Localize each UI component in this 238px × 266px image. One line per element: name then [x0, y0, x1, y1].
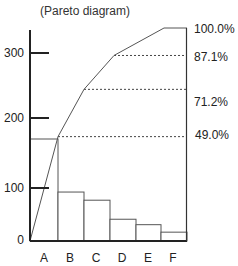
- ytick-300: 300: [2, 47, 24, 59]
- pct-label-49: 49.0%: [195, 129, 229, 141]
- bar-e: [136, 225, 161, 241]
- ytick-100: 100: [2, 182, 24, 194]
- xtick-f: F: [163, 252, 183, 264]
- xtick-e: E: [138, 252, 158, 264]
- cumulative-guides: [58, 55, 186, 136]
- xtick-a: A: [34, 252, 54, 264]
- pct-label-87: 87.1%: [194, 51, 228, 63]
- xtick-b: B: [60, 252, 80, 264]
- bar-b: [58, 192, 84, 241]
- ytick-200: 200: [2, 112, 24, 124]
- bar-d: [110, 219, 136, 241]
- bar-f: [161, 232, 187, 241]
- bar-c: [84, 200, 110, 241]
- xtick-c: C: [86, 252, 106, 264]
- ytick-0: 0: [2, 234, 24, 246]
- pct-label-100: 100.0%: [194, 23, 235, 35]
- pct-label-71: 71.2%: [194, 96, 228, 108]
- xtick-d: D: [112, 252, 132, 264]
